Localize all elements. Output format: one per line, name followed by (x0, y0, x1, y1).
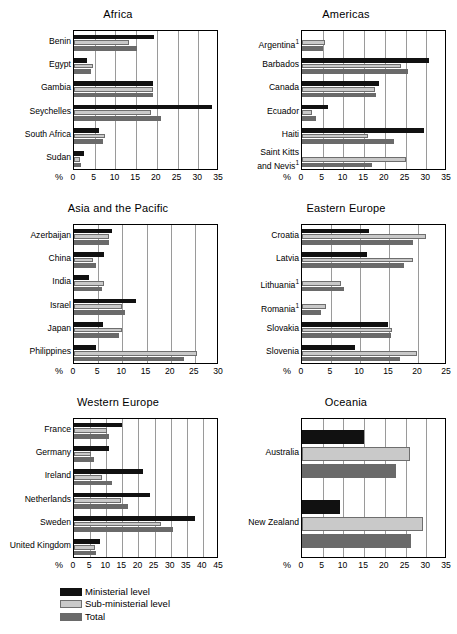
gridline (343, 31, 344, 169)
legend-swatch-total (60, 613, 82, 621)
bar-americas-5-2 (302, 163, 372, 168)
chart-title: Eastern Europe (236, 202, 456, 214)
gridline (364, 31, 365, 169)
legend-label-total: Total (85, 612, 105, 622)
gridline (426, 419, 427, 557)
x-tick-label: 20 (404, 366, 430, 376)
y-axis-label: Benin (9, 37, 71, 47)
axis-unit-symbol: % (55, 366, 63, 376)
bar-asia-and-the-pacific-1-1 (74, 258, 93, 263)
bar-western-europe-2-2 (74, 481, 112, 486)
bar-americas-2-1 (302, 87, 375, 92)
y-axis-label: United Kingdom (9, 541, 71, 551)
gridline (360, 225, 361, 363)
bar-western-europe-5-2 (74, 551, 96, 556)
bar-eastern-europe-3-1 (302, 304, 326, 309)
chart-panel-africa: AfricaBeninEgyptGambiaSeychellesSouth Af… (8, 8, 228, 194)
chart-panel-asia-and-the-pacific: Asia and the PacificAzerbaijanChinaIndia… (8, 202, 228, 388)
y-axis-label: Israel (9, 301, 71, 311)
legend-item-ministerial: Ministerial level (60, 586, 170, 597)
bar-asia-and-the-pacific-4-0 (74, 322, 103, 327)
gridline (136, 31, 137, 169)
y-axis-label: Australia (237, 448, 299, 458)
x-tick-label: 35 (433, 560, 457, 570)
bar-africa-2-0 (74, 81, 153, 86)
y-axis-label: Azerbaijan (9, 231, 71, 241)
legend-label-ministerial: Ministerial level (85, 587, 150, 597)
y-axis-label: India (9, 277, 71, 287)
x-tick-label: 15 (375, 366, 401, 376)
bar-eastern-europe-1-2 (302, 263, 404, 268)
bar-africa-1-2 (74, 69, 91, 74)
legend-item-total: Total (60, 611, 170, 622)
bar-americas-4-2 (302, 139, 394, 144)
bar-americas-4-1 (302, 134, 368, 139)
x-tick-label: 25 (433, 366, 457, 376)
plot-area (73, 224, 218, 364)
bar-americas-3-1 (302, 110, 312, 115)
bar-oceania-0-2 (302, 464, 396, 479)
x-tick-label: 10 (346, 366, 372, 376)
gridline (323, 31, 324, 169)
bar-eastern-europe-1-1 (302, 258, 413, 263)
bar-eastern-europe-5-1 (302, 351, 417, 356)
bar-western-europe-3-0 (74, 493, 150, 498)
bar-western-europe-0-1 (74, 428, 107, 433)
gridline (157, 31, 158, 169)
bar-western-europe-4-0 (74, 516, 195, 521)
bar-western-europe-0-0 (74, 423, 122, 428)
bar-africa-0-0 (74, 35, 154, 40)
x-tick-label: 20 (157, 366, 183, 376)
gridline (195, 225, 196, 363)
bar-eastern-europe-4-1 (302, 328, 392, 333)
x-tick-label: 0 (288, 366, 314, 376)
x-tick-label: 30 (205, 366, 231, 376)
legend-swatch-sub_ministerial (60, 600, 82, 608)
bar-asia-and-the-pacific-5-1 (74, 351, 197, 356)
legend-label-sub_ministerial: Sub-ministerial level (85, 599, 170, 609)
bar-eastern-europe-5-2 (302, 357, 400, 362)
bar-eastern-europe-0-2 (302, 240, 413, 245)
y-axis-label: Saint Kittsand Nevis1 (237, 148, 299, 171)
gridline (155, 419, 156, 557)
bar-americas-1-0 (302, 58, 429, 63)
bar-asia-and-the-pacific-3-1 (74, 304, 122, 309)
bar-americas-3-0 (302, 105, 328, 110)
bar-asia-and-the-pacific-2-1 (74, 281, 104, 286)
bar-africa-4-1 (74, 134, 105, 139)
axis-unit-symbol: % (55, 560, 63, 570)
bar-oceania-0-1 (302, 447, 410, 462)
bar-americas-4-0 (302, 128, 424, 133)
bar-asia-and-the-pacific-0-1 (74, 234, 109, 239)
bar-western-europe-1-2 (74, 457, 94, 462)
bar-asia-and-the-pacific-5-2 (74, 357, 184, 362)
gridline (418, 225, 419, 363)
plot-area (301, 30, 446, 170)
y-axis-label: Sudan (9, 153, 71, 163)
x-tick-label: 0 (60, 366, 86, 376)
bar-americas-1-1 (302, 64, 401, 69)
bar-asia-and-the-pacific-1-0 (74, 252, 104, 257)
bar-western-europe-3-1 (74, 498, 121, 503)
chart-title: Asia and the Pacific (8, 202, 228, 214)
gridline (203, 419, 204, 557)
bar-asia-and-the-pacific-5-0 (74, 345, 96, 350)
gridline (122, 225, 123, 363)
bar-oceania-1-2 (302, 534, 411, 549)
bar-western-europe-4-1 (74, 522, 161, 527)
bar-eastern-europe-1-0 (302, 252, 367, 257)
bar-western-europe-1-0 (74, 446, 109, 451)
bar-asia-and-the-pacific-4-1 (74, 328, 122, 333)
x-tick-label: 45 (205, 560, 231, 570)
bar-western-europe-0-2 (74, 434, 109, 439)
y-axis-label: Philippines (9, 347, 71, 357)
legend-item-sub_ministerial: Sub-ministerial level (60, 599, 170, 610)
y-axis-label: Ecuador (237, 107, 299, 117)
bar-asia-and-the-pacific-0-2 (74, 240, 109, 245)
bar-asia-and-the-pacific-2-2 (74, 287, 102, 292)
y-axis-label: Argentina1 (237, 37, 299, 50)
bar-western-europe-2-1 (74, 475, 102, 480)
bar-eastern-europe-0-1 (302, 234, 426, 239)
bar-africa-3-0 (74, 105, 212, 110)
gridline (331, 225, 332, 363)
